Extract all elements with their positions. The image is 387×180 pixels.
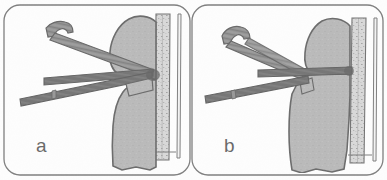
figure-root: a (0, 0, 387, 180)
panel-a-label: a (36, 135, 47, 156)
surgical-illustration-svg: a (0, 0, 387, 180)
panel-a-convergence-point (146, 69, 160, 81)
panel-b-label: b (224, 135, 235, 156)
panel-b-convergence-point (344, 66, 354, 76)
